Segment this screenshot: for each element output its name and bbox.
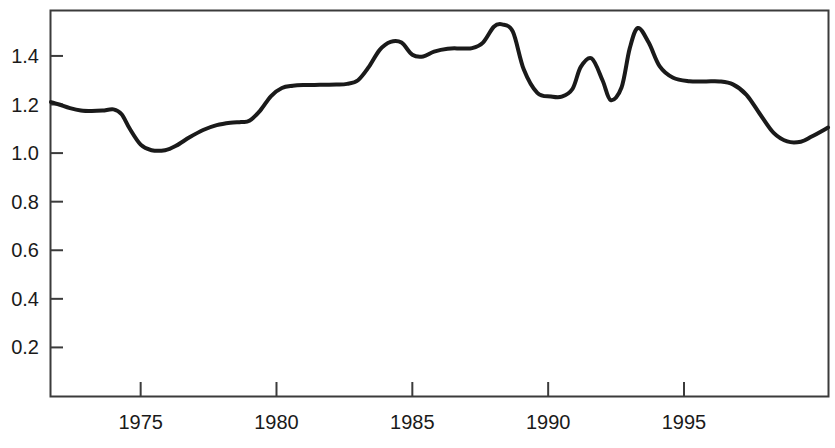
- y-tick-label: 1.2: [11, 94, 39, 116]
- x-tick-label: 1980: [254, 411, 299, 433]
- y-tick-label: 0.6: [11, 239, 39, 261]
- chart-background: [0, 0, 835, 448]
- chart-canvas: 0.20.40.60.81.01.21.4 197519801985199019…: [0, 0, 835, 448]
- x-tick-label: 1975: [118, 411, 163, 433]
- x-tick-label: 1990: [526, 411, 571, 433]
- y-tick-label: 1.4: [11, 45, 39, 67]
- y-tick-label: 0.2: [11, 336, 39, 358]
- x-tick-label: 1985: [390, 411, 435, 433]
- x-tick-label: 1995: [662, 411, 707, 433]
- line-chart: 0.20.40.60.81.01.21.4 197519801985199019…: [0, 0, 835, 448]
- y-tick-label: 1.0: [11, 142, 39, 164]
- y-tick-label: 0.8: [11, 191, 39, 213]
- y-tick-label: 0.4: [11, 288, 39, 310]
